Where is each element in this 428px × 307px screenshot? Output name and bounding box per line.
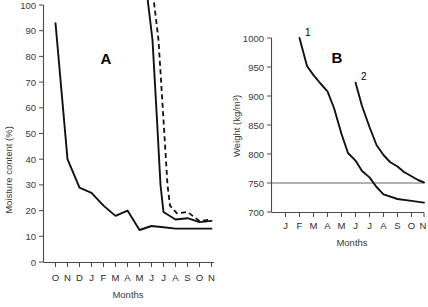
- panel-a-month-7: M: [136, 272, 144, 283]
- panel-a-month-0: O: [52, 272, 59, 283]
- panel-a-ytick-20: 20: [25, 205, 36, 216]
- panel-a-month-1: N: [64, 272, 71, 283]
- panel-a-ytick-10: 10: [25, 231, 36, 242]
- panel-a-month-10: A: [172, 272, 179, 283]
- panel-a-month-5: M: [112, 272, 120, 283]
- panel-b-ytick-850: 850: [248, 120, 264, 131]
- panel-a: 0 10 20 30 40 50 60 70 80 90 100 Moistur…: [3, 0, 215, 300]
- panel-a-ytick-90: 90: [25, 25, 36, 36]
- panel-b-x-ticks: [286, 213, 425, 218]
- panel-a-month-11: S: [184, 272, 190, 283]
- panel-b-y-tick-labels: 700 750 800 850 900 950 1000: [243, 33, 264, 218]
- panel-a-month-8: J: [149, 272, 154, 283]
- panel-b-ytick-900: 900: [248, 91, 264, 102]
- panel-a-month-2: D: [76, 272, 83, 283]
- panel-a-ytick-50: 50: [25, 128, 36, 139]
- panel-b-month-2: M: [310, 220, 318, 231]
- panel-b-letter: B: [332, 49, 343, 66]
- panel-a-month-4: F: [101, 272, 107, 283]
- panel-b-month-10: N: [420, 220, 427, 231]
- panel-a-x-tick-labels: O N D J F M A M J J A S O N: [52, 272, 215, 283]
- panel-b-series-1: [300, 38, 425, 203]
- panel-a-ytick-60: 60: [25, 102, 36, 113]
- panel-a-ytick-0: 0: [31, 257, 36, 268]
- panel-a-month-3: J: [89, 272, 94, 283]
- panel-b-month-0: J: [283, 220, 288, 231]
- panel-b-x-axis-label: Months: [336, 237, 367, 248]
- panel-b-month-8: S: [394, 220, 400, 231]
- panel-a-ytick-40: 40: [25, 154, 36, 165]
- panel-b-month-1: F: [297, 220, 303, 231]
- two-panel-line-chart: 0 10 20 30 40 50 60 70 80 90 100 Moistur…: [0, 0, 428, 307]
- panel-a-series-second-solid: [147, 0, 212, 222]
- panel-a-month-6: A: [124, 272, 131, 283]
- panel-b-ytick-1000: 1000: [243, 33, 264, 44]
- panel-b-ytick-750: 750: [248, 178, 264, 189]
- panel-b-y-axis-label: Weight (kg/m³): [231, 95, 242, 157]
- panel-b-ytick-700: 700: [248, 207, 264, 218]
- panel-a-month-12: O: [196, 272, 203, 283]
- panel-b-month-9: O: [408, 220, 415, 231]
- panel-b: 700 750 800 850 900 950 1000 Weight (kg/…: [231, 27, 427, 248]
- panel-b-month-5: J: [353, 220, 358, 231]
- panel-a-series-second-dashed: [153, 0, 212, 221]
- panel-a-ytick-80: 80: [25, 51, 36, 62]
- panel-a-month-9: J: [161, 272, 166, 283]
- panel-b-ytick-800: 800: [248, 149, 264, 160]
- panel-a-series-main: [56, 23, 212, 230]
- panel-b-month-7: A: [380, 220, 387, 231]
- panel-a-letter: A: [101, 50, 112, 67]
- panel-b-month-3: A: [324, 220, 331, 231]
- panel-b-series-1-label: 1: [305, 27, 311, 38]
- panel-a-month-13: N: [208, 272, 215, 283]
- panel-b-month-4: M: [338, 220, 346, 231]
- panel-a-ytick-30: 30: [25, 179, 36, 190]
- panel-a-x-axis-label: Months: [112, 289, 143, 300]
- panel-a-x-ticks: [56, 263, 212, 268]
- panel-a-y-tick-labels: 0 10 20 30 40 50 60 70 80 90 100: [20, 0, 36, 268]
- panel-b-x-tick-labels: J F M A M J J A S O N: [283, 220, 426, 231]
- panel-a-ytick-100: 100: [20, 0, 36, 11]
- panel-b-ytick-950: 950: [248, 62, 264, 73]
- panel-b-series-2: [356, 83, 425, 183]
- panel-b-y-ticks: [267, 38, 272, 212]
- panel-b-series-2-label: 2: [361, 71, 367, 82]
- panel-a-ytick-70: 70: [25, 77, 36, 88]
- panel-a-y-axis-label: Moisture content (%): [3, 126, 14, 214]
- panel-b-month-6: J: [367, 220, 372, 231]
- panel-a-y-ticks: [39, 5, 44, 262]
